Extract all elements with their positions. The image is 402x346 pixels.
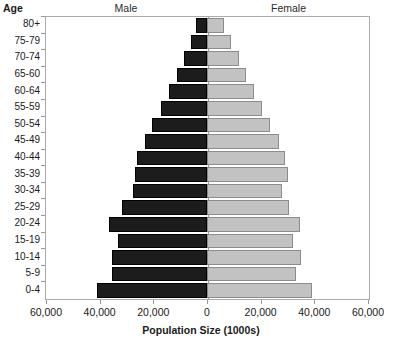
bar-row — [46, 67, 369, 84]
age-tick — [41, 281, 45, 282]
bar-male-40-44 — [137, 151, 207, 166]
bar-female-20-24 — [207, 217, 300, 232]
bar-male-35-39 — [135, 167, 207, 182]
x-tick-label: 20,000 — [231, 306, 291, 318]
x-tick-label: 0 — [177, 306, 237, 318]
age-tick — [41, 66, 45, 67]
bar-female-5-9 — [207, 267, 296, 282]
x-tick — [207, 300, 208, 304]
bar-male-5-9 — [112, 267, 207, 282]
bar-female-35-39 — [207, 167, 288, 182]
bar-male-70-74 — [184, 51, 207, 66]
bar-row — [46, 266, 369, 283]
bar-male-65-60 — [177, 68, 207, 83]
age-tick — [41, 165, 45, 166]
bar-row — [46, 100, 369, 117]
x-tick-label: 20,000 — [123, 306, 183, 318]
bar-female-45-49 — [207, 134, 279, 149]
age-tick — [41, 215, 45, 216]
x-tick — [368, 300, 369, 304]
age-label-10-14: 10-14 — [0, 252, 40, 262]
age-tick — [41, 33, 45, 34]
bar-row — [46, 150, 369, 167]
bar-female-10-14 — [207, 250, 301, 265]
bar-female-25-29 — [207, 200, 289, 215]
bar-male-60-64 — [169, 84, 207, 99]
age-label-60-64: 60-64 — [0, 86, 40, 96]
bar-female-40-44 — [207, 151, 285, 166]
age-label-40-44: 40-44 — [0, 152, 40, 162]
x-tick — [46, 300, 47, 304]
bar-male-30-34 — [133, 184, 207, 199]
age-tick — [41, 198, 45, 199]
bar-male-15-19 — [118, 234, 207, 249]
age-tick — [41, 149, 45, 150]
age-tick — [41, 99, 45, 100]
age-label-5-9: 5-9 — [0, 268, 40, 278]
population-pyramid-chart: Age Male Female 0-45-910-1415-1920-2425-… — [0, 0, 402, 346]
bar-female-60-64 — [207, 84, 254, 99]
bar-female-50-54 — [207, 118, 270, 133]
age-label-45-49: 45-49 — [0, 135, 40, 145]
x-tick — [100, 300, 101, 304]
age-axis-header: Age — [3, 1, 23, 15]
age-tick — [41, 116, 45, 117]
age-tick — [41, 232, 45, 233]
bar-row — [46, 34, 369, 51]
bar-female-75-79 — [207, 35, 231, 50]
x-tick-label: 40,000 — [284, 306, 344, 318]
age-label-65-60: 65-60 — [0, 69, 40, 79]
x-axis-title: Population Size (1000s) — [0, 324, 402, 336]
age-tick — [41, 132, 45, 133]
age-label-15-19: 15-19 — [0, 235, 40, 245]
bar-male-0-4 — [97, 283, 207, 298]
age-label-75-79: 75-79 — [0, 36, 40, 46]
age-label-0-4: 0-4 — [0, 285, 40, 295]
x-tick — [153, 300, 154, 304]
x-tick-label: 40,000 — [70, 306, 130, 318]
age-label-55-59: 55-59 — [0, 102, 40, 112]
bar-row — [46, 282, 369, 299]
bar-row — [46, 17, 369, 34]
bar-female-55-59 — [207, 101, 262, 116]
bar-male-50-54 — [152, 118, 207, 133]
bar-female-30-34 — [207, 184, 282, 199]
bar-row — [46, 249, 369, 266]
x-tick-label: 60,000 — [16, 306, 76, 318]
bar-male-80+ — [196, 18, 207, 33]
bar-male-20-24 — [109, 217, 207, 232]
x-tick-label: 60,000 — [338, 306, 398, 318]
age-label-70-74: 70-74 — [0, 52, 40, 62]
x-tick — [261, 300, 262, 304]
bar-male-10-14 — [112, 250, 207, 265]
bar-female-80+ — [207, 18, 224, 33]
bar-row — [46, 166, 369, 183]
bar-row — [46, 233, 369, 250]
bar-male-45-49 — [145, 134, 207, 149]
bar-male-55-59 — [161, 101, 207, 116]
bar-male-75-79 — [191, 35, 207, 50]
bar-female-70-74 — [207, 51, 239, 66]
plot-area — [45, 16, 370, 300]
age-label-25-29: 25-29 — [0, 202, 40, 212]
age-label-50-54: 50-54 — [0, 119, 40, 129]
age-tick — [41, 49, 45, 50]
age-label-30-34: 30-34 — [0, 185, 40, 195]
bar-female-15-19 — [207, 234, 293, 249]
age-label-20-24: 20-24 — [0, 218, 40, 228]
bar-row — [46, 133, 369, 150]
age-tick — [41, 16, 45, 17]
bar-row — [46, 199, 369, 216]
bar-female-65-60 — [207, 68, 246, 83]
bar-row — [46, 216, 369, 233]
age-tick — [41, 182, 45, 183]
age-tick — [41, 265, 45, 266]
bar-male-25-29 — [122, 200, 207, 215]
bar-row — [46, 50, 369, 67]
bar-row — [46, 183, 369, 200]
legend-label-female: Female — [207, 1, 370, 15]
bar-female-0-4 — [207, 283, 312, 298]
age-label-80+: 80+ — [0, 19, 40, 29]
age-tick — [41, 82, 45, 83]
x-tick — [314, 300, 315, 304]
